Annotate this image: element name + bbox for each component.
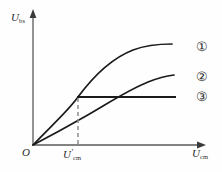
ucm-subscript: cm <box>73 154 81 161</box>
origin-label: O <box>22 147 30 158</box>
x-axis-subscript: cm <box>200 153 208 160</box>
y-axis-symbol: U <box>11 11 19 23</box>
ucm-threshold-label: U'cm <box>63 148 81 162</box>
y-axis-label: Ubs <box>11 12 25 25</box>
y-axis-subscript: bs <box>19 17 25 24</box>
x-axis-label: Ucm <box>192 148 208 161</box>
x-axis-symbol: U <box>192 147 200 159</box>
curve-tag-3: ③ <box>196 90 208 103</box>
curve-2-path <box>33 75 174 145</box>
plot-canvas <box>0 0 222 172</box>
y-axis-arrow-icon <box>30 9 37 18</box>
curve-tag-2: ② <box>196 70 208 83</box>
ucm-symbol: U <box>63 148 71 160</box>
curve-1-path <box>33 44 172 145</box>
voltage-characteristic-figure: Ubs Ucm O U'cm ① ② ③ <box>0 0 222 172</box>
curve-tag-1: ① <box>196 40 208 53</box>
